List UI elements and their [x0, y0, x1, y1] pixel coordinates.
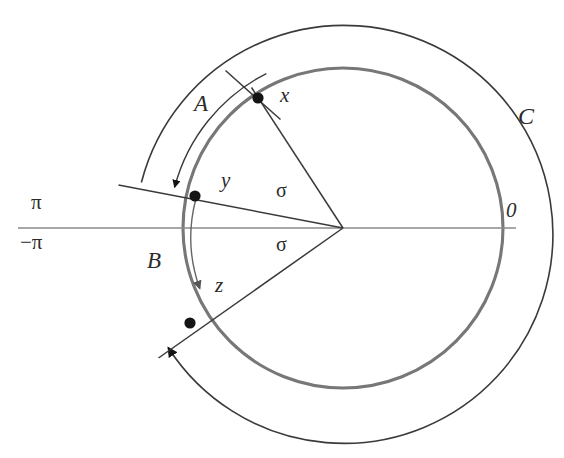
label-pi: π — [31, 192, 42, 213]
label-sigma-upper: σ — [276, 180, 287, 200]
arc-b — [191, 199, 200, 288]
point-x-marker — [252, 92, 263, 103]
point-z-marker — [184, 317, 195, 328]
label-sigma-lower: σ — [276, 234, 287, 254]
label-point-x: x — [280, 85, 289, 106]
ray-to-z — [159, 228, 344, 358]
label-point-z: z — [215, 275, 223, 296]
label-arc-b: B — [147, 249, 161, 272]
label-minus-pi: −π — [20, 232, 42, 253]
label-zero: 0 — [506, 200, 517, 221]
branch-cut-diagram: π −π 0 C A B x y z σ σ — [0, 0, 564, 458]
outer-circle-c — [142, 25, 553, 443]
diagram-canvas — [0, 0, 564, 458]
point-y-marker — [189, 190, 200, 201]
label-outer-circle-c: C — [518, 104, 534, 128]
ray-to-y — [119, 185, 344, 228]
label-arc-a: A — [194, 92, 208, 115]
label-point-y: y — [221, 170, 230, 191]
ray-to-x — [252, 88, 344, 229]
